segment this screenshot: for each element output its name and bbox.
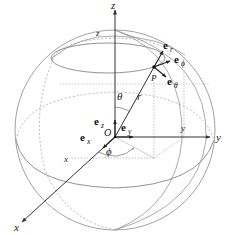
origin-point [114, 136, 116, 138]
svg-text:r: r [170, 45, 173, 54]
axis-label-z: z [110, 0, 116, 11]
etheta-label: e θ [167, 75, 178, 90]
origin-label: O [104, 127, 111, 138]
ey-label: e y [121, 121, 132, 136]
svg-text:e: e [121, 121, 126, 133]
phi-label: ϕ [106, 145, 112, 157]
meridian-left-dashed [39, 55, 115, 230]
theta-label: θ [117, 90, 123, 102]
svg-text:e: e [94, 115, 99, 127]
inner-label-y: y [180, 123, 185, 133]
latitude-circle-back-dashed [52, 38, 170, 62]
phi-arc [98, 148, 134, 156]
svg-text:ϕ: ϕ [181, 59, 185, 68]
svg-text:e: e [174, 53, 179, 65]
svg-text:e: e [167, 75, 172, 87]
latitude-circle-front [51, 43, 165, 73]
axis-label-x: x [13, 221, 19, 233]
equator-front [16, 140, 214, 188]
projection-from-origin [115, 137, 154, 158]
svg-text:θ: θ [174, 81, 178, 90]
svg-text:e: e [80, 131, 85, 143]
x-axis [22, 137, 115, 222]
theta-arc [115, 107, 130, 112]
inner-label-z: z [95, 28, 100, 38]
ex-label: e x [80, 131, 91, 146]
point-p [152, 65, 156, 69]
svg-text:z: z [100, 121, 104, 130]
spherical-coordinates-diagram: z y x z y x O P r θ ϕ e z e y e x e r e … [0, 0, 230, 235]
ez-label: e z [94, 115, 104, 130]
svg-text:x: x [86, 137, 91, 146]
point-p-label: P [150, 73, 157, 83]
radius-label: r [137, 90, 142, 102]
svg-text:y: y [127, 127, 132, 136]
axis-label-y: y [215, 131, 221, 143]
inner-label-x: x [63, 154, 68, 164]
svg-text:e: e [163, 39, 168, 51]
